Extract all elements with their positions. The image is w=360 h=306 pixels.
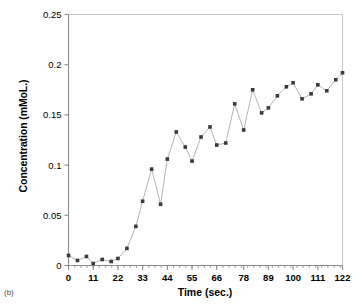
data-line (69, 73, 343, 264)
x-tick-label: 22 (113, 272, 124, 283)
data-point-marker (233, 102, 237, 106)
data-point-marker (334, 78, 338, 82)
data-point-marker (159, 202, 163, 206)
x-tick-label: 122 (335, 272, 351, 283)
x-tick-label: 100 (285, 272, 301, 283)
x-tick-label: 0 (66, 272, 71, 283)
x-tick-label: 66 (211, 272, 222, 283)
data-point-marker (291, 81, 295, 85)
data-point-marker (285, 85, 289, 89)
data-point-marker (316, 83, 320, 87)
data-point-marker (190, 159, 194, 163)
data-point-marker (199, 135, 203, 139)
data-point-marker (141, 199, 145, 203)
x-tick-labels-group: 01122334455667889100111122 (66, 272, 351, 283)
data-markers-group (67, 71, 345, 265)
data-point-marker (325, 89, 329, 93)
x-tick-label: 55 (187, 272, 198, 283)
data-point-marker (91, 262, 95, 266)
data-point-marker (150, 167, 154, 171)
data-point-marker (215, 143, 219, 147)
y-tick-label: 0.05 (43, 210, 62, 221)
x-tick-label: 44 (162, 272, 173, 283)
chart-plot-area: 00.050.10.150.20.25 01122334455667889100… (0, 0, 360, 306)
data-point-marker (166, 157, 170, 161)
data-point-marker (76, 259, 80, 263)
data-point-marker (251, 88, 255, 92)
y-tick-labels-group: 00.050.10.150.20.25 (43, 9, 62, 271)
data-point-marker (242, 128, 246, 132)
data-point-marker (116, 257, 120, 261)
data-point-marker (260, 111, 264, 115)
tick-marks-group (65, 15, 343, 271)
data-point-marker (109, 260, 113, 264)
axes-group (69, 15, 343, 266)
data-point-marker (100, 258, 104, 262)
x-tick-label: 11 (88, 272, 99, 283)
data-point-marker (208, 125, 212, 129)
x-axis-title: Time (sec.) (68, 286, 342, 298)
data-point-marker (224, 141, 228, 145)
data-point-marker (175, 130, 179, 134)
data-point-marker (300, 97, 304, 101)
data-point-marker (341, 71, 345, 75)
data-point-marker (85, 255, 89, 259)
data-point-marker (267, 106, 271, 110)
data-point-marker (309, 92, 313, 96)
data-point-marker (67, 254, 71, 258)
y-tick-label: 0.25 (43, 9, 62, 20)
data-point-marker (276, 94, 280, 98)
x-tick-label: 89 (263, 272, 274, 283)
data-point-marker (125, 247, 129, 251)
figure-panel: Concentration (mMoL.) 00.050.10.150.20.2… (0, 0, 360, 306)
data-point-marker (134, 225, 138, 229)
x-tick-label: 33 (137, 272, 148, 283)
y-tick-label: 0.1 (48, 160, 61, 171)
x-tick-label: 78 (238, 272, 249, 283)
y-tick-label: 0.15 (43, 109, 62, 120)
data-line-group (69, 73, 343, 264)
data-point-marker (183, 145, 187, 149)
y-tick-label: 0 (56, 260, 61, 271)
x-tick-label: 111 (310, 272, 326, 283)
y-tick-label: 0.2 (48, 59, 61, 70)
panel-caption: (b) (4, 288, 14, 297)
